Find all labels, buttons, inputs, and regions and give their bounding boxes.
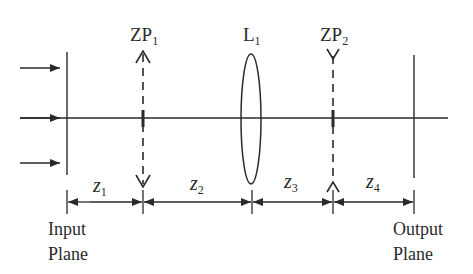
input-plane-label-line2: Plane [48, 244, 88, 264]
lens-ellipse [241, 54, 261, 184]
zone-plate-1: ZP1 [130, 24, 158, 187]
zone-plate-2: ZP2 [320, 24, 348, 192]
input-plane-label-line1: Input [48, 219, 86, 239]
zp2-label: ZP2 [320, 24, 348, 48]
optical-diagram: ZP1 L1 ZP2 z1 z2 z3 z4 Input Plane [0, 0, 473, 274]
z3-label: z3 [283, 170, 298, 195]
output-plane-label-line2: Plane [393, 244, 433, 264]
z2-label: z2 [189, 172, 204, 197]
incoming-light-arrows [20, 68, 60, 163]
zp2-top-arrowhead-icon [327, 49, 339, 59]
output-plane-label-line1: Output [393, 219, 443, 239]
z1-label: z1 [92, 174, 107, 199]
lens-1-label: L1 [243, 24, 261, 48]
lens-1: L1 [241, 24, 261, 184]
zp1-label: ZP1 [130, 24, 158, 48]
z4-label: z4 [365, 170, 380, 195]
